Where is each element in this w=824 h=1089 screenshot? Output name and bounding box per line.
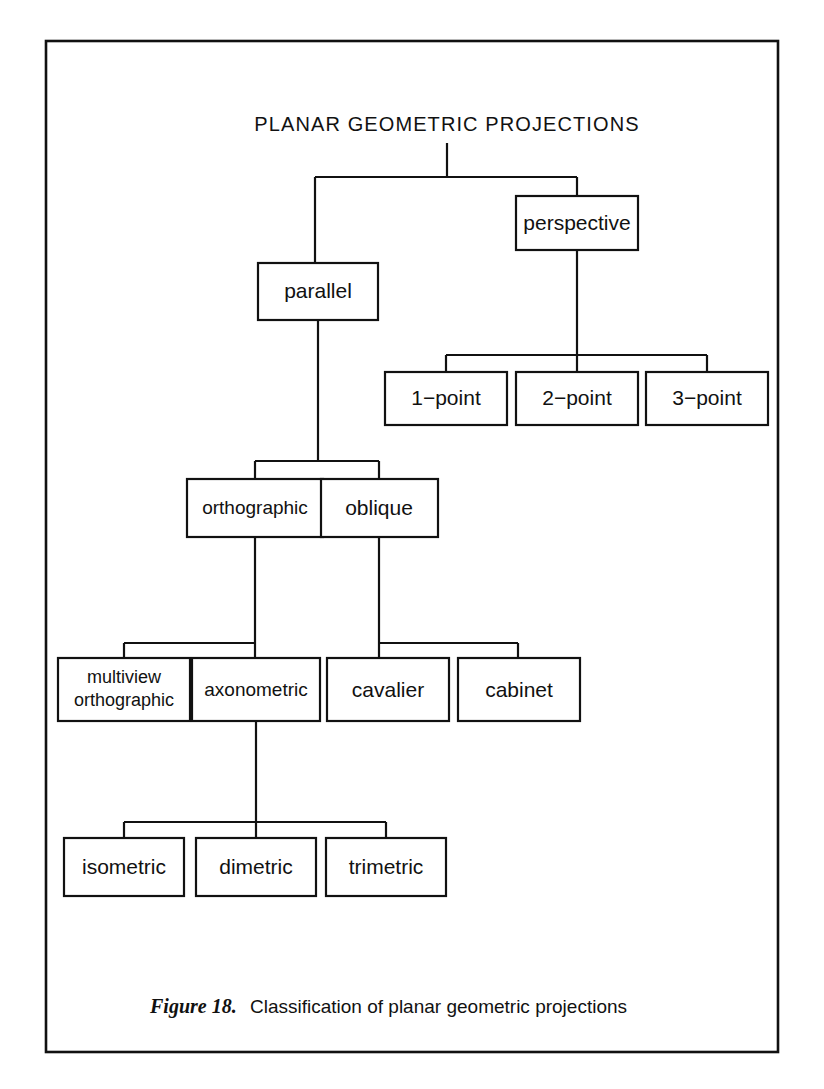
node-trimetric-label: trimetric bbox=[349, 855, 424, 878]
node-multiview-label-line1: multiview bbox=[87, 667, 162, 687]
node-three-point[interactable]: 3−point bbox=[646, 372, 768, 425]
node-cavalier[interactable]: cavalier bbox=[327, 658, 449, 721]
node-two-point-label: 2−point bbox=[542, 386, 612, 409]
connector-axonometric-to-level4 bbox=[124, 721, 386, 838]
node-oblique-label: oblique bbox=[345, 496, 413, 519]
node-oblique[interactable]: oblique bbox=[321, 479, 438, 537]
connector-oblique-to-level3 bbox=[379, 537, 518, 658]
node-orthographic[interactable]: orthographic bbox=[187, 479, 323, 537]
node-axonometric[interactable]: axonometric bbox=[192, 658, 320, 721]
node-parallel[interactable]: parallel bbox=[258, 263, 378, 320]
connector-parallel-to-level2 bbox=[255, 320, 379, 479]
node-perspective-label: perspective bbox=[523, 211, 630, 234]
node-multiview-orthographic[interactable]: multiview orthographic bbox=[58, 658, 190, 721]
node-cabinet[interactable]: cabinet bbox=[458, 658, 580, 721]
node-cavalier-label: cavalier bbox=[352, 678, 424, 701]
node-two-point[interactable]: 2−point bbox=[516, 372, 638, 425]
node-axonometric-label: axonometric bbox=[204, 679, 308, 700]
node-three-point-label: 3−point bbox=[672, 386, 742, 409]
node-isometric[interactable]: isometric bbox=[64, 838, 184, 896]
node-isometric-label: isometric bbox=[82, 855, 166, 878]
node-orthographic-label: orthographic bbox=[202, 497, 308, 518]
node-dimetric-label: dimetric bbox=[219, 855, 293, 878]
connector-orthographic-to-level3 bbox=[124, 537, 255, 658]
figure-container: PLANAR GEOMETRIC PROJECTIONS perspective… bbox=[0, 0, 824, 1089]
node-one-point[interactable]: 1−point bbox=[385, 372, 507, 425]
figure-border bbox=[46, 41, 778, 1052]
node-one-point-label: 1−point bbox=[411, 386, 481, 409]
figure-caption-text: Classification of planar geometric proje… bbox=[250, 996, 627, 1017]
node-perspective[interactable]: perspective bbox=[516, 196, 638, 250]
node-multiview-label-line2: orthographic bbox=[74, 690, 174, 710]
planar-projections-tree-diagram: PLANAR GEOMETRIC PROJECTIONS perspective… bbox=[0, 0, 824, 1089]
node-parallel-label: parallel bbox=[284, 279, 352, 302]
figure-caption: Figure 18. Classification of planar geom… bbox=[149, 995, 627, 1018]
figure-caption-label: Figure 18. bbox=[149, 995, 237, 1018]
diagram-title: PLANAR GEOMETRIC PROJECTIONS bbox=[254, 113, 639, 135]
node-dimetric[interactable]: dimetric bbox=[196, 838, 316, 896]
connector-perspective-to-points bbox=[446, 250, 707, 372]
node-cabinet-label: cabinet bbox=[485, 678, 553, 701]
node-trimetric[interactable]: trimetric bbox=[326, 838, 446, 896]
